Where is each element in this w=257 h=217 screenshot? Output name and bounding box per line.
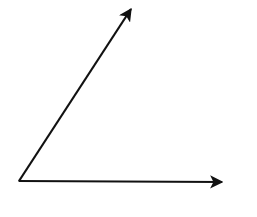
upper-ray [19, 9, 131, 181]
horizontal-ray [19, 181, 222, 182]
angle-diagram [0, 0, 257, 217]
vertex-point [18, 180, 20, 182]
angle-svg [0, 0, 257, 217]
